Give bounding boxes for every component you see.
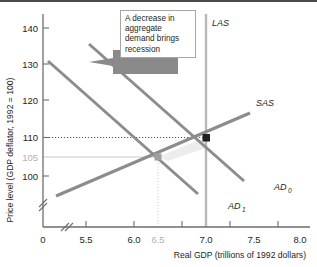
recession-note: A decrease in aggregate demand brings re… <box>120 10 196 58</box>
y-tick-label-110: 110 <box>23 132 38 143</box>
y-tick-label-130: 130 <box>22 59 38 70</box>
x-axis-title: Real GDP (trillions of 1992 dollars) <box>174 250 306 260</box>
note-line-3: demand brings <box>125 34 191 44</box>
x-tick-label-7-0: 7.0 <box>199 234 212 245</box>
ad0-label-text: AD <box>273 182 287 192</box>
ad1-label-subscript: 1 <box>242 206 246 213</box>
note-line-4: recession <box>125 45 191 55</box>
ad0-label-subscript: 0 <box>288 187 292 194</box>
x-axis-ticks <box>86 221 278 227</box>
note-line-2: aggregate <box>125 24 191 34</box>
las-curve-label: LAS <box>212 18 229 28</box>
ad1-curve <box>48 61 198 194</box>
ad1-label-text: AD <box>227 201 241 211</box>
ad1-curve-label: AD 1 <box>227 201 246 213</box>
x-tick-label-6-5: 6.5 <box>151 234 164 245</box>
note-line-1: A decrease in <box>125 14 191 24</box>
ad0-curve-label: AD 0 <box>273 182 292 194</box>
y-tick-label-120: 120 <box>22 95 38 106</box>
equilibrium-recession-point <box>155 154 162 161</box>
x-tick-label-5-5: 5.5 <box>79 234 92 245</box>
origin-label: 0 <box>40 234 45 245</box>
chart-figure: 140 130 120 110 105 100 5.5 6.0 6.5 7.0 … <box>0 0 317 267</box>
y-tick-label-100: 100 <box>22 171 38 182</box>
y-tick-label-105: 105 <box>22 152 38 163</box>
equilibrium-initial-point <box>203 134 211 142</box>
y-tick-label-140: 140 <box>22 23 38 34</box>
x-tick-label-8-0: 8.0 <box>293 234 306 245</box>
y-axis-title: Price level (GDP deflator, 1992 = 100) <box>5 77 15 222</box>
x-tick-label-6-0: 6.0 <box>127 234 140 245</box>
x-tick-label-7-5: 7.5 <box>247 234 260 245</box>
sas-curve-label: SAS <box>256 98 274 108</box>
y-axis-ticks <box>43 28 49 176</box>
